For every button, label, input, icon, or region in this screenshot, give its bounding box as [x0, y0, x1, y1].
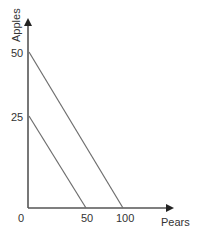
x-axis-label: Pears [161, 216, 190, 228]
chart-svg: Apples 50 25 0 50 100 Pears [0, 0, 202, 235]
y-axis-label: Apples [10, 8, 22, 42]
y-tick-50: 50 [11, 47, 23, 59]
x-tick-100: 100 [116, 212, 134, 224]
budget-line-outer [29, 52, 123, 208]
budget-line-inner [29, 116, 86, 208]
chart: Apples 50 25 0 50 100 Pears [0, 0, 202, 235]
y-tick-25: 25 [11, 111, 23, 123]
x-tick-50: 50 [81, 212, 93, 224]
origin-label: 0 [18, 212, 24, 224]
